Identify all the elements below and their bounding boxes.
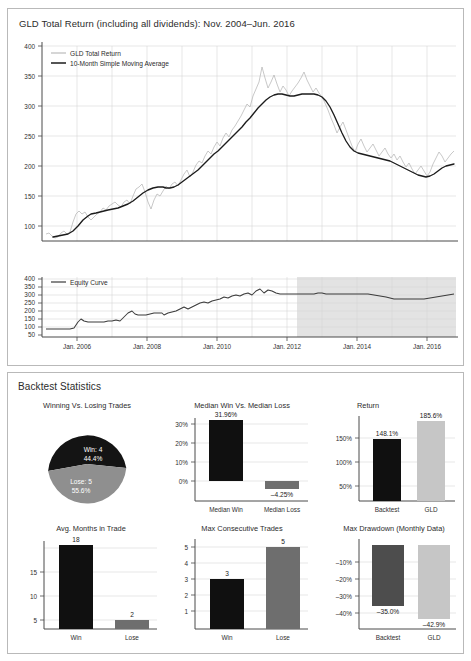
- legend-label-equity: Equity Curve: [70, 279, 108, 287]
- pie-label-lose: Lose: 5: [70, 478, 92, 485]
- y-tick-label: –20%: [336, 576, 353, 583]
- x-tick-label: Jan. 2006: [63, 343, 92, 350]
- bar-median-win: [209, 420, 243, 481]
- x-tick-label: Backtest: [376, 634, 401, 641]
- chart-title: Return: [357, 401, 379, 410]
- y-tick-label: 15: [30, 569, 38, 576]
- shaded-out-of-sample-region: [297, 277, 456, 337]
- pie-label-lose-pct: 55.6%: [72, 487, 91, 494]
- bar-value-label: 148.1%: [376, 430, 399, 437]
- bar-value-label: 2: [130, 611, 134, 618]
- equity-y-tick-label: 50: [28, 331, 36, 338]
- x-tick-label: Median Loss: [264, 506, 300, 513]
- chart-title: Median Win Vs. Median Loss: [194, 401, 290, 410]
- equity-curve-chart: 400 350 300 250 200 150 100 50 Jan. 2006…: [8, 269, 463, 364]
- legend-label-sma: 10-Month Simple Moving Average: [70, 60, 169, 68]
- x-tick-label: Lose: [276, 634, 290, 641]
- x-tick-label: Backtest: [375, 506, 400, 513]
- chart-legend: GLD Total Return 10-Month Simple Moving …: [51, 50, 169, 68]
- x-tick-label: GLD: [427, 634, 441, 641]
- top-chart-panel: GLD Total Return (including all dividend…: [7, 8, 464, 366]
- chart-gridlines: [42, 46, 456, 241]
- avg-months-in-trade-chart: Avg. Months in Trade 15 10 5 18 2 Win: [11, 521, 163, 651]
- y-tick-label: 10: [30, 593, 38, 600]
- equity-y-tick-label: 200: [24, 307, 35, 314]
- y-tick-label: 250: [24, 133, 35, 140]
- y-tick-label: 300: [24, 103, 35, 110]
- max-drawdown-chart: Max Drawdown (Monthly Data) –10% –20% –3…: [316, 521, 462, 651]
- equity-y-tick-label: 350: [24, 283, 35, 290]
- x-tick-label: Win: [221, 634, 232, 641]
- y-tick-label: 50%: [339, 483, 352, 490]
- x-tick-label: Lose: [125, 634, 139, 641]
- y-tick-label: 5: [184, 544, 188, 551]
- median-win-vs-median-loss-chart: Median Win Vs. Median Loss 30% 20% 10% 0…: [162, 398, 314, 524]
- y-tick-label: 30%: [175, 421, 188, 428]
- x-tick-label: Jan. 2016: [413, 343, 442, 350]
- bar-lose-months: [115, 620, 149, 629]
- y-tick-label: 1: [184, 608, 188, 615]
- x-tick-label: Win: [70, 634, 81, 641]
- bar-backtest-drawdown: [372, 545, 404, 606]
- series-10-month-sma: [53, 94, 454, 237]
- y-tick-label: 150: [24, 193, 35, 200]
- winning-vs-losing-trades-chart: Winning Vs. Losing Trades Win: 4 44.4% L…: [11, 398, 163, 520]
- y-tick-label: 100%: [336, 459, 353, 466]
- y-tick-label: –40%: [336, 610, 353, 617]
- y-tick-label: –30%: [336, 593, 353, 600]
- y-tick-label: 3: [184, 576, 188, 583]
- series-gld-total-return: [46, 67, 454, 238]
- legend-label-gld: GLD Total Return: [70, 50, 121, 57]
- max-consecutive-trades-chart: Max Consecutive Trades 5 4 3 2 1: [162, 521, 314, 651]
- equity-y-tick-label: 300: [24, 291, 35, 298]
- equity-y-tick-label: 400: [24, 275, 35, 282]
- y-tick-label: 5: [33, 617, 37, 624]
- bar-value-label: 185.6%: [420, 412, 443, 419]
- bar-backtest-return: [373, 439, 401, 501]
- y-tick-label: 2: [184, 592, 188, 599]
- equity-legend: Equity Curve: [51, 279, 108, 287]
- backtest-report-page: GLD Total Return (including all dividend…: [0, 0, 471, 661]
- x-tick-label: Jan. 2008: [133, 343, 162, 350]
- y-tick-label: 400: [24, 43, 35, 50]
- y-tick-label: 150%: [336, 435, 353, 442]
- equity-y-tick-label: 250: [24, 299, 35, 306]
- y-tick-label: 200: [24, 163, 35, 170]
- pie-label-win: Win: 4: [84, 446, 103, 453]
- bar-value-label: 31.96%: [215, 411, 238, 418]
- y-tick-label: –10%: [336, 559, 353, 566]
- backtest-statistics-panel: Backtest Statistics Winning Vs. Losing T…: [7, 372, 464, 654]
- bar-value-label: 3: [225, 570, 229, 577]
- bar-median-loss: [265, 481, 299, 489]
- gld-total-return-chart: 400 350 300 250 200 150 100 GLD Total Re…: [8, 34, 463, 264]
- bar-value-label: 5: [281, 538, 285, 545]
- x-tick-label: Jan. 2012: [273, 343, 302, 350]
- y-tick-label: 350: [24, 73, 35, 80]
- return-chart: Return 150% 100% 50% 148.1% 185.6% Backt…: [321, 398, 461, 524]
- x-tick-label: Jan. 2010: [203, 343, 232, 350]
- equity-y-tick-marks: [38, 279, 42, 335]
- bar-value-label: 18: [72, 536, 80, 543]
- y-tick-label: 4: [184, 560, 188, 567]
- bar-win-consecutive: [210, 579, 244, 629]
- bar-value-label: –35.0%: [377, 608, 400, 615]
- chart-title: Max Drawdown (Monthly Data): [343, 524, 444, 533]
- pie-label-win-pct: 44.4%: [84, 455, 103, 462]
- y-tick-label: 0%: [179, 478, 189, 485]
- bar-value-label: –4.25%: [271, 491, 294, 498]
- bar-value-label: –42.9%: [423, 621, 446, 628]
- equity-y-tick-label: 100: [24, 323, 35, 330]
- y-tick-marks: [38, 46, 42, 226]
- bar-gld-return: [417, 421, 445, 501]
- y-tick-label: 100: [24, 223, 35, 230]
- bar-lose-consecutive: [266, 547, 300, 629]
- bar-win-months: [59, 545, 93, 629]
- equity-y-tick-label: 150: [24, 315, 35, 322]
- y-tick-marks: [191, 424, 195, 481]
- y-tick-marks: [355, 562, 359, 613]
- x-tick-label: Median Win: [209, 506, 243, 513]
- y-tick-label: 10%: [175, 459, 188, 466]
- equity-x-tick-marks: [77, 337, 427, 341]
- y-tick-marks: [40, 572, 44, 620]
- page-title: GLD Total Return (including all dividend…: [19, 18, 295, 29]
